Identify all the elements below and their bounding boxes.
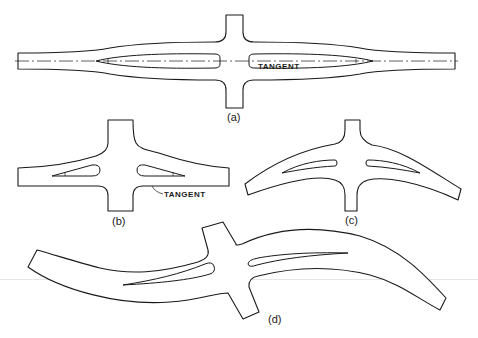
panel-d-label: (d)	[268, 313, 281, 325]
panel-a-tangent-annotation: TANGENT	[258, 62, 300, 71]
panel-c-outline	[245, 120, 461, 211]
panel-a-outline	[18, 15, 455, 108]
diagram-canvas	[0, 0, 478, 338]
panel-d-drawing	[28, 222, 446, 319]
panel-b-tangent-leader	[152, 186, 163, 194]
panel-c-drawing	[245, 120, 461, 211]
panel-a-label: (a)	[227, 111, 240, 123]
panel-b-label: (b)	[112, 215, 125, 227]
panel-b-tangent-annotation: TANGENT	[164, 190, 206, 199]
panel-c-label: (c)	[345, 214, 358, 226]
panel-d-outline	[28, 222, 446, 319]
panel-a-drawing	[15, 15, 458, 108]
